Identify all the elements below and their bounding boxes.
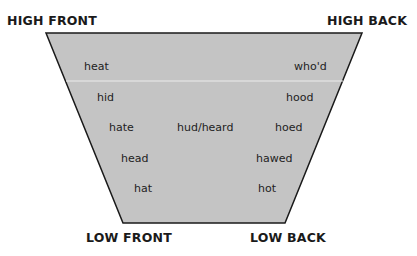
label-low-back: LOW BACK [250,230,326,245]
label-high-back: HIGH BACK [327,13,407,28]
word-hud-heard: hud/heard [177,121,233,134]
word-hid: hid [97,91,114,104]
word-hoed: hoed [275,121,302,134]
word-heat: heat [84,60,109,73]
word-hood: hood [286,91,313,104]
word-whod: who'd [294,60,327,73]
label-low-front: LOW FRONT [86,230,172,245]
word-head: head [121,152,148,165]
word-hawed: hawed [256,152,292,165]
label-high-front: HIGH FRONT [7,13,97,28]
word-hate: hate [109,121,134,134]
word-hat: hat [134,182,152,195]
word-hot: hot [258,182,276,195]
